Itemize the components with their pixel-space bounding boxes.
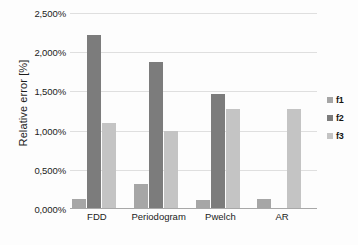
x-axis-tick-label: AR: [276, 211, 289, 222]
bar-periodogram-f2: [149, 62, 163, 209]
x-axis-tick-label: Periodogram: [131, 211, 185, 222]
y-axis-tick-label: 0,500%: [20, 164, 66, 175]
legend-item-f3: f3: [327, 128, 355, 143]
legend-label: f1: [336, 95, 344, 105]
gridline: [70, 209, 317, 210]
bar-pwelch-f3: [226, 109, 240, 209]
bar-pwelch-f2: [211, 94, 225, 209]
y-axis-tick-label: 2,500%: [20, 8, 66, 19]
bar-ar-f3: [287, 109, 301, 209]
x-axis-tick-labels: FDDPeriodogramPwelchAR: [70, 211, 317, 229]
x-axis-tick-label: Pwelch: [205, 211, 236, 222]
legend-label: f2: [336, 113, 344, 123]
legend-item-f2: f2: [327, 110, 355, 125]
chart-legend: f1f2f3: [327, 92, 355, 146]
bars-layer: [70, 13, 317, 209]
y-axis-tick-labels: 0,000%0,500%1,000%1,500%2,000%2,500%: [20, 0, 66, 245]
x-axis-tick-label: FDD: [87, 211, 107, 222]
legend-label: f3: [336, 131, 344, 141]
bar-fdd-f2: [87, 35, 101, 209]
legend-item-f1: f1: [327, 92, 355, 107]
legend-swatch-icon: [327, 97, 333, 103]
y-axis-tick-label: 1,000%: [20, 125, 66, 136]
y-axis-tick-label: 0,000%: [20, 204, 66, 215]
bar-group: [255, 13, 317, 209]
bar-group: [194, 13, 256, 209]
bar-group: [70, 13, 132, 209]
x-axis-line: [70, 208, 317, 209]
legend-swatch-icon: [327, 115, 333, 121]
legend-swatch-icon: [327, 133, 333, 139]
bar-periodogram-f1: [134, 184, 148, 209]
bar-periodogram-f3: [164, 131, 178, 209]
bar-fdd-f3: [102, 123, 116, 209]
y-axis-tick-label: 1,500%: [20, 86, 66, 97]
bar-chart: Relative error [%] 0,000%0,500%1,000%1,5…: [0, 0, 358, 245]
bar-group: [132, 13, 194, 209]
plot-area: [70, 13, 317, 209]
y-axis-tick-label: 2,000%: [20, 47, 66, 58]
